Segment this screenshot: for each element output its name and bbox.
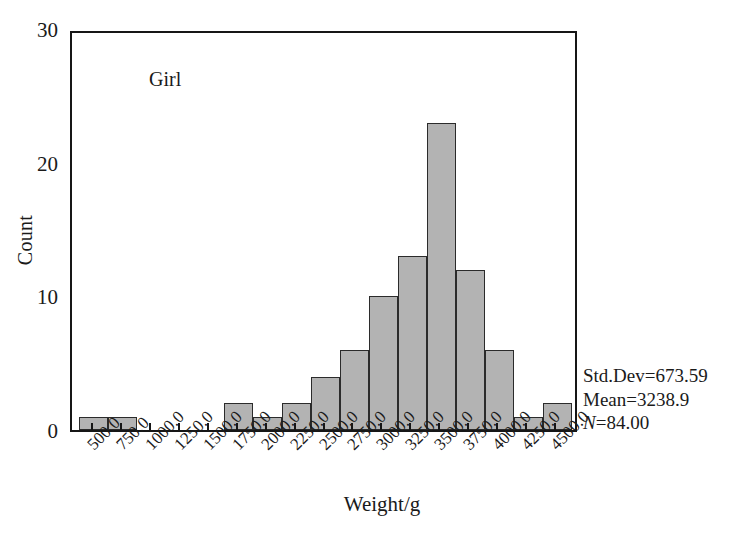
y-axis-tick-label: 20 [18, 154, 58, 175]
std-dev-text: Std.Dev=673.59 [583, 364, 708, 388]
x-axis-title: Weight/g [0, 492, 734, 517]
bar [427, 123, 456, 430]
y-axis-tick-label: 0 [18, 421, 58, 442]
plot-area: Girl [70, 31, 577, 432]
statistics-annotation: Std.Dev=673.59 Mean=3238.9 N=84.00 [583, 364, 708, 435]
series-label: Girl [149, 69, 181, 89]
bar [398, 256, 427, 430]
y-axis-tick-label: 30 [18, 20, 58, 41]
y-axis-title-text: Count [14, 215, 37, 265]
n-symbol: N [583, 412, 596, 433]
y-axis-title: Count [8, 200, 42, 280]
n-text: N=84.00 [583, 411, 708, 435]
bar [456, 270, 485, 430]
y-axis-tick-label: 10 [18, 287, 58, 308]
n-value: =84.00 [596, 412, 649, 433]
mean-text: Mean=3238.9 [583, 388, 708, 412]
histogram-figure: 0102030 Count Girl 500.0750.01000.01250.… [0, 0, 734, 538]
